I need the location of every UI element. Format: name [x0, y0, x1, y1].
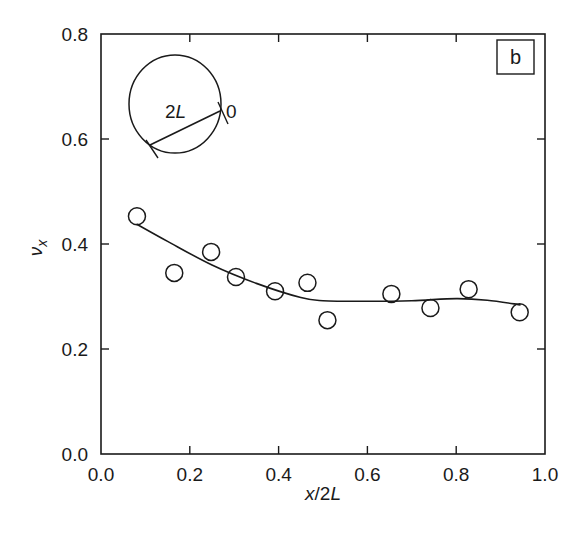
x-tick-label: 0.4	[265, 464, 292, 485]
fit-curve	[137, 224, 521, 305]
x-tick-label: 0.2	[177, 464, 203, 485]
data-point	[511, 304, 528, 321]
y-axis-title: νx	[25, 239, 50, 257]
plot-frame	[101, 34, 545, 454]
data-point	[166, 264, 183, 281]
y-tick-label: 0.8	[62, 24, 88, 45]
x-axis-title: x/2L	[304, 483, 341, 504]
data-point	[203, 243, 220, 260]
y-tick-label: 0.6	[62, 129, 88, 150]
y-tick-label: 0.0	[62, 444, 88, 465]
x-tick-label: 0.8	[443, 464, 469, 485]
data-point	[319, 312, 336, 329]
inset-origin-label: 0	[226, 101, 237, 122]
x-tick-label: 0.0	[88, 464, 114, 485]
panel-label: b	[510, 46, 521, 68]
data-point	[383, 285, 400, 302]
x-axis-ticks: 0.00.20.40.60.81.0	[88, 34, 558, 485]
y-tick-label: 0.2	[62, 339, 88, 360]
data-point	[460, 281, 477, 298]
inset-circle-diagram: 2L 0	[129, 55, 237, 158]
data-point	[128, 208, 145, 225]
y-axis-ticks: 0.00.20.40.60.8	[62, 24, 545, 465]
x-tick-label: 1.0	[532, 464, 558, 485]
chart: 0.00.20.40.60.81.0 0.00.20.40.60.8 x/2L …	[0, 0, 588, 538]
x-tick-label: 0.6	[354, 464, 380, 485]
data-points	[128, 208, 528, 329]
inset-chord-label: 2L	[165, 101, 186, 122]
data-point	[422, 300, 439, 317]
data-point	[299, 274, 316, 291]
y-tick-label: 0.4	[62, 234, 89, 255]
